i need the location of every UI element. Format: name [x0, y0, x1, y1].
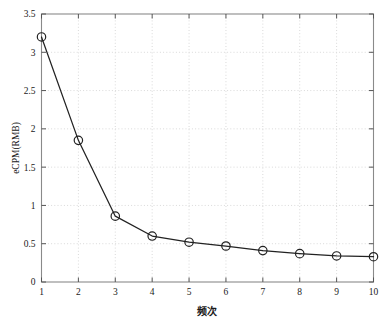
- y-tick-label: 1.5: [24, 163, 36, 173]
- chart-figure: 12345678910 00.511.522.533.5 eCPM(RMB) 频…: [0, 0, 389, 321]
- plot-area-background: [42, 14, 374, 282]
- y-tick-label: 2.5: [24, 86, 36, 96]
- x-tick-label: 6: [224, 287, 229, 297]
- x-tick-label: 5: [187, 287, 192, 297]
- y-tick-label: 3.5: [24, 9, 36, 19]
- x-tick-label: 9: [334, 287, 339, 297]
- x-tick-label: 3: [113, 287, 118, 297]
- x-tick-label: 4: [150, 287, 155, 297]
- y-tick-label: 3: [31, 48, 36, 58]
- chart-canvas: 12345678910 00.511.522.533.5 eCPM(RMB) 频…: [0, 0, 389, 321]
- y-tick-label: 2: [31, 124, 36, 134]
- x-tick-label: 7: [260, 287, 265, 297]
- y-axis-label-text: eCPM(RMB): [11, 122, 22, 174]
- y-tick-label: 0: [31, 277, 36, 287]
- y-tick-label: 0.5: [24, 239, 36, 249]
- y-axis-label: eCPM(RMB): [11, 122, 22, 174]
- x-tick-label: 2: [76, 287, 81, 297]
- x-tick-label: 1: [39, 287, 44, 297]
- x-axis-label-text: 频次: [197, 305, 217, 317]
- x-tick-label: 8: [297, 287, 302, 297]
- x-tick-label: 10: [369, 287, 379, 297]
- y-tick-label: 1: [31, 201, 36, 211]
